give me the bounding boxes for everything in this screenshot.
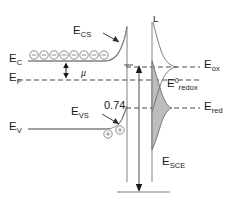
- label-e-red-sub: red: [212, 106, 223, 115]
- label-e-redox-sub: redox: [179, 83, 198, 92]
- label-e-sce-base: E: [162, 155, 170, 167]
- label-fermi-level: EF: [9, 72, 21, 84]
- label-e-ox-base: E: [204, 58, 212, 70]
- label-e-redox-sup: 0: [175, 77, 179, 84]
- label-e-c-base: E: [9, 52, 17, 64]
- label-e-sce: ESCE: [162, 156, 185, 168]
- label-e-cs: ECS: [73, 25, 91, 37]
- label-e-vs: EVS: [71, 106, 89, 118]
- label-conduction-band: EC: [9, 53, 22, 65]
- redox-oxidized-distribution-curve: [152, 22, 177, 112]
- label-valence-band: EV: [9, 121, 22, 133]
- label-gap-value: 0.74: [104, 100, 125, 111]
- label-e-f-sub: F: [17, 77, 22, 86]
- label-e-red-base: E: [204, 100, 212, 112]
- label-e-ox-sub: ox: [212, 64, 220, 73]
- conduction-band-electron-group: [30, 51, 108, 59]
- label-e-vs-base: E: [71, 105, 79, 117]
- redox-reduced-distribution-curve: [152, 61, 172, 150]
- label-mu: μ: [81, 68, 86, 78]
- label-e-redox-base: E: [167, 77, 175, 89]
- label-dos-axis: L: [153, 14, 158, 24]
- label-e-f-base: E: [9, 71, 17, 83]
- label-e-v-base: E: [9, 120, 17, 132]
- label-e-redox: E0redox: [167, 78, 198, 90]
- label-e-sce-sub: SCE: [170, 161, 186, 170]
- potential-span-arrowhead-up: [136, 65, 142, 73]
- label-e-c-sub: C: [17, 58, 23, 67]
- mu-arrowhead-down: [63, 73, 69, 79]
- mu-arrowhead-up: [63, 63, 69, 69]
- label-e-cs-sub: CS: [81, 30, 92, 39]
- label-e-cs-base: E: [73, 24, 81, 36]
- potential-span-arrowhead-down: [136, 184, 142, 192]
- label-e-vs-sub: VS: [79, 111, 89, 120]
- label-e-v-sub: V: [17, 126, 22, 135]
- label-e-red: Ered: [204, 101, 223, 113]
- band-diagram-figure: EC EF EV ECS EVS Eox Ered E0redox ESCE μ…: [0, 0, 237, 205]
- label-e-ox: Eox: [204, 59, 220, 71]
